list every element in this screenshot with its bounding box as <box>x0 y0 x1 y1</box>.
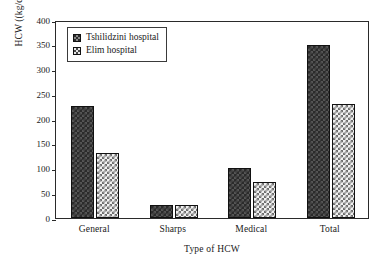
x-axis-tick-label: Sharps <box>133 224 213 234</box>
y-axis-tick-mark <box>52 195 56 196</box>
x-axis-tick-labels: GeneralSharpsMedicalTotal <box>55 224 369 238</box>
legend-item: Elim hospital <box>73 44 159 57</box>
y-axis-tick-mark <box>52 145 56 146</box>
y-axis-tick-label: 100 <box>27 165 50 174</box>
y-axis-tick-label: 200 <box>27 116 50 125</box>
y-axis-tick-label: 350 <box>27 41 50 50</box>
y-axis-tick-mark <box>52 220 56 221</box>
y-axis-tick-label: 250 <box>27 91 50 100</box>
y-axis-tick-label: 50 <box>27 190 50 199</box>
x-axis-tick-label: Total <box>290 224 370 234</box>
y-axis-tick-mark <box>52 71 56 72</box>
y-axis-tick-mark <box>52 170 56 171</box>
legend-swatch-icon <box>73 47 81 55</box>
x-axis-title: Type of HCW <box>55 244 369 254</box>
bar <box>253 182 276 218</box>
bar <box>150 205 173 218</box>
y-axis-tick-labels: 050100150200250300350400 <box>27 0 50 267</box>
bar <box>96 153 119 218</box>
x-axis-tick-label: General <box>54 224 134 234</box>
y-axis-tick-mark <box>52 121 56 122</box>
y-axis-tick-label: 400 <box>27 17 50 26</box>
y-axis-title: HCW ((kg/day) <box>14 0 28 76</box>
bar-group-medical <box>228 22 276 218</box>
legend-item: Tshilidzini hospital <box>73 31 159 44</box>
y-axis-tick-label: 0 <box>27 215 50 224</box>
y-axis-tick-mark <box>52 22 56 23</box>
bar-group-total <box>307 22 355 218</box>
bar-chart: HCW ((kg/day) 050100150200250300350400 G… <box>0 0 391 267</box>
legend-label: Tshilidzini hospital <box>86 32 159 43</box>
y-axis-tick-label: 300 <box>27 66 50 75</box>
bar <box>332 104 355 218</box>
legend-swatch-icon <box>73 34 81 42</box>
x-axis-tick-label: Medical <box>211 224 291 234</box>
bar <box>71 106 94 218</box>
y-axis-tick-mark <box>52 96 56 97</box>
y-axis-tick-mark <box>52 46 56 47</box>
chart-legend: Tshilidzini hospitalElim hospital <box>67 27 167 62</box>
y-axis-tick-label: 150 <box>27 140 50 149</box>
bar <box>175 205 198 218</box>
legend-label: Elim hospital <box>86 45 137 56</box>
bar <box>228 168 251 218</box>
bar <box>307 45 330 218</box>
